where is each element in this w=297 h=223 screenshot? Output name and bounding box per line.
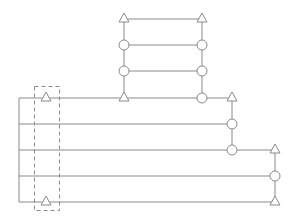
triangle-ladder-top-right-icon bbox=[197, 13, 207, 22]
triangle-ladder-top-left-icon bbox=[119, 13, 129, 22]
triangle-far-right-bottom-icon bbox=[270, 196, 280, 205]
circle-ladder-right-1-icon bbox=[197, 40, 207, 50]
circle-mid-right-2-icon bbox=[227, 145, 237, 155]
triangle-dashed-top-icon bbox=[41, 92, 51, 101]
triangle-ladder-bottom-left-icon bbox=[119, 92, 129, 101]
wiring-diagram bbox=[0, 0, 297, 223]
triangle-mid-right-top-icon bbox=[227, 92, 237, 101]
dashed-selection-box bbox=[35, 87, 60, 211]
circle-ladder-right-3-icon bbox=[197, 93, 207, 103]
triangle-dashed-bottom-icon bbox=[41, 196, 51, 205]
circle-far-right-1-icon bbox=[270, 171, 280, 181]
circle-mid-right-1-icon bbox=[227, 119, 237, 129]
circle-ladder-left-2-icon bbox=[119, 66, 129, 76]
triangle-far-right-top-icon bbox=[270, 144, 280, 153]
circle-ladder-left-1-icon bbox=[119, 40, 129, 50]
circle-ladder-right-2-icon bbox=[197, 66, 207, 76]
diagram-canvas bbox=[0, 0, 297, 223]
